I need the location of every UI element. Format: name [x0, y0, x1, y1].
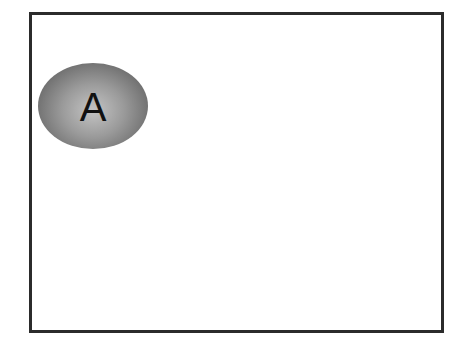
- diagram-frame: [29, 12, 444, 333]
- node-a-label: A: [80, 87, 107, 127]
- node-a: A: [38, 63, 148, 149]
